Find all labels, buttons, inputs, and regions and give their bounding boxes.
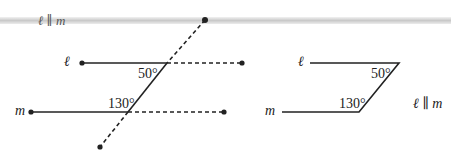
right-angle-50: 50° bbox=[371, 67, 391, 81]
left-angle-50: 50° bbox=[138, 67, 158, 81]
point-m-left bbox=[28, 109, 33, 114]
right-parallel-note: ℓ ∥ m bbox=[413, 97, 442, 111]
right-label-m: m bbox=[265, 104, 275, 118]
transversal-dashed-bottom bbox=[100, 112, 128, 147]
left-label-m: m bbox=[15, 104, 25, 118]
point-m-right bbox=[221, 109, 226, 114]
right-label-l: ℓ bbox=[298, 55, 304, 69]
point-l-right bbox=[239, 60, 244, 65]
right-angle-130: 130° bbox=[339, 97, 366, 111]
left-angle-130: 130° bbox=[108, 97, 135, 111]
left-figure bbox=[28, 17, 244, 150]
point-l-left bbox=[79, 60, 84, 65]
transversal-dashed-top bbox=[167, 20, 205, 63]
point-transversal-top bbox=[202, 17, 208, 23]
point-transversal-bottom bbox=[97, 144, 102, 149]
left-label-l: ℓ bbox=[64, 55, 70, 69]
